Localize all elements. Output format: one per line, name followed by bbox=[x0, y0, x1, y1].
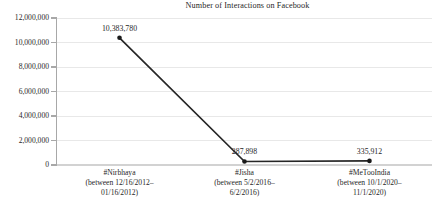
category-label-line: 11/1/2020) bbox=[307, 188, 432, 198]
data-point-marker bbox=[367, 159, 372, 164]
y-axis-tick-label: 12,000,000 bbox=[15, 14, 49, 22]
line-chart: Number of Interactions on Facebook 12,00… bbox=[0, 0, 435, 214]
data-point-label: 287,898 bbox=[232, 148, 257, 156]
series-markers bbox=[117, 36, 372, 164]
category-label-line: (between 5/2/2016– bbox=[182, 178, 307, 188]
y-axis-tick-label: 2,000,000 bbox=[19, 137, 49, 145]
category-label-line: (between 12/16/2012– bbox=[57, 178, 182, 188]
data-point-marker bbox=[242, 159, 247, 164]
y-axis-tick-label: 6,000,000 bbox=[19, 88, 49, 96]
data-point-marker bbox=[117, 36, 122, 41]
category-label-line: (between 10/1/2020– bbox=[307, 178, 432, 188]
category-label-line: 01/16/2012) bbox=[57, 188, 182, 198]
y-axis-tick-label: 4,000,000 bbox=[19, 112, 49, 120]
x-axis-category-labels: #Nirbhaya(between 12/16/2012–01/16/2012)… bbox=[57, 168, 432, 214]
y-axis-tick-label: 8,000,000 bbox=[19, 63, 49, 71]
plot-area: 10,383,780287,898335,912 bbox=[57, 18, 432, 165]
y-axis-tick-label: 0 bbox=[45, 161, 49, 169]
chart-title: Number of Interactions on Facebook bbox=[0, 1, 435, 10]
x-axis-category-label: #Jisha(between 5/2/2016–6/2/2016) bbox=[182, 168, 307, 214]
data-point-label: 335,912 bbox=[357, 148, 382, 156]
series-polyline bbox=[120, 38, 370, 162]
series-line bbox=[57, 18, 432, 165]
category-label-line: 6/2/2016) bbox=[182, 188, 307, 198]
y-axis-tick-label: 10,000,000 bbox=[15, 39, 49, 47]
x-axis-category-label: #MeTooIndia(between 10/1/2020–11/1/2020) bbox=[307, 168, 432, 214]
x-axis-category-label: #Nirbhaya(between 12/16/2012–01/16/2012) bbox=[57, 168, 182, 214]
category-label-line: #Jisha bbox=[182, 168, 307, 178]
data-point-label: 10,383,780 bbox=[102, 25, 137, 33]
category-label-line: #Nirbhaya bbox=[57, 168, 182, 178]
category-label-line: #MeTooIndia bbox=[307, 168, 432, 178]
